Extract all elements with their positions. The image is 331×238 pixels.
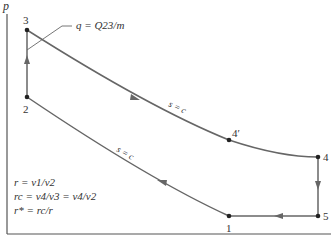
arrow-2-3 [24,55,30,64]
equation-compression-ratio: r = v1/v2 [14,176,56,188]
state-point-4prime [227,138,232,143]
state-point-4 [316,155,321,160]
state-point-5 [316,214,321,219]
process-3-4 [27,30,318,157]
label-point-3: 3 [23,14,29,26]
arrow-5-1 [274,213,283,219]
label-point-4: 4 [323,151,329,163]
state-point-3 [25,28,30,33]
arrow-4-5 [315,181,321,190]
label-point-1: 1 [226,222,232,234]
y-axis-label: p [2,0,9,13]
heat-leader-line [27,26,72,50]
label-point-2: 2 [23,103,29,115]
label-point-4prime: 4′ [232,127,240,139]
heat-input-label: q = Q23/m [76,19,124,31]
equation-cutoff-ratio: rc = v4/v3 = v4/v2 [14,190,97,202]
isentrope-lower-label: s = c [115,144,136,162]
equation-ratio-star: r* = rc/r [14,204,54,216]
arrow-1-2 [157,180,167,186]
state-point-1 [227,214,232,219]
label-point-5: 5 [323,210,329,222]
state-point-2 [25,95,30,100]
pv-diagram: p 3 2 4′ 4 5 1 q = Q23/m s = c s = c r =… [0,0,331,238]
